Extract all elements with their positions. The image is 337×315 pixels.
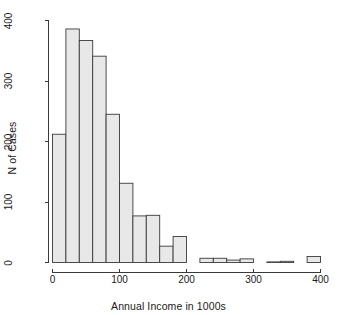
x-axis-title: Annual Income in 1000s xyxy=(0,300,337,312)
histogram-bar xyxy=(66,29,79,263)
y-tick-label-text: 0 xyxy=(3,248,15,278)
histogram-bar xyxy=(240,259,253,263)
x-tick-label: 400 xyxy=(312,274,329,285)
x-tick-label: 0 xyxy=(50,274,56,285)
histogram-bar xyxy=(133,216,146,263)
histogram-bar xyxy=(227,260,240,262)
x-tick-label: 300 xyxy=(245,274,262,285)
y-axis xyxy=(45,21,49,263)
histogram-bar xyxy=(280,261,293,262)
histogram-bar xyxy=(106,114,119,262)
histogram-bar xyxy=(79,40,92,262)
histogram-bar xyxy=(93,56,106,262)
histogram-figure: 0100200300400 0100200300400 Annual Incom… xyxy=(0,0,337,315)
histogram-bar xyxy=(146,215,159,262)
histogram-bar xyxy=(120,183,133,262)
histogram-plot-area xyxy=(0,0,337,315)
y-tick-label: 0 xyxy=(0,257,24,269)
histogram-bar xyxy=(213,258,226,262)
y-tick-label-text: 300 xyxy=(3,66,15,96)
y-tick-label: 100 xyxy=(0,196,24,208)
histogram-bar xyxy=(267,262,280,263)
y-tick-label: 300 xyxy=(0,75,24,87)
histogram-bar xyxy=(53,134,66,262)
y-tick-label-text: 400 xyxy=(3,6,15,36)
histogram-bars xyxy=(53,29,321,263)
x-axis xyxy=(53,269,321,273)
x-tick-label: 200 xyxy=(178,274,195,285)
y-axis-title: N of Cases xyxy=(6,103,18,193)
histogram-bar xyxy=(200,258,213,262)
x-tick-label: 100 xyxy=(111,274,128,285)
histogram-bar xyxy=(160,246,173,262)
y-tick-label: 400 xyxy=(0,15,24,27)
histogram-bar xyxy=(173,236,186,262)
histogram-bar xyxy=(307,256,320,262)
